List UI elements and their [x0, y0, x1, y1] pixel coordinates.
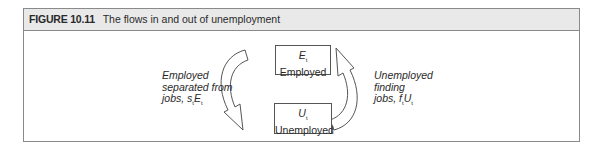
unemployed-symbol: Ut	[275, 107, 331, 124]
right-flow-arrow-icon	[330, 48, 357, 130]
left-flow-label: Employed separated from jobs, stEt	[162, 70, 233, 110]
unemployed-box: Ut Unemployed	[274, 103, 332, 134]
right-flow-label: Unemployed finding jobs, ftUt	[374, 70, 433, 110]
employed-symbol: Et	[276, 49, 330, 66]
employed-label: Employed	[280, 66, 327, 78]
unemployed-label: Unemployed	[275, 124, 334, 136]
employed-box: Et Employed	[275, 45, 331, 75]
